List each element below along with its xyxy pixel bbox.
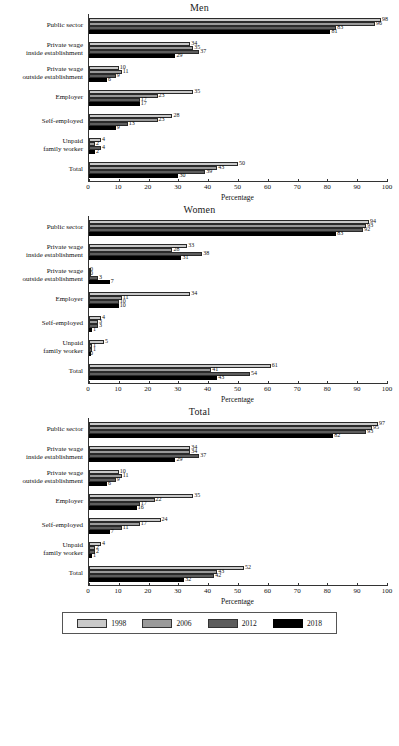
x-axis-tick (387, 179, 388, 182)
x-axis-tick-label: 100 (382, 183, 393, 191)
x-axis-tick-label: 20 (144, 183, 151, 191)
y-axis-label-line2: family worker (43, 348, 83, 356)
bar-2018[interactable] (89, 304, 119, 308)
bar-value-label: 9 (116, 124, 120, 131)
bar-value-label: 6 (107, 480, 111, 487)
x-axis-tick-label: 60 (264, 385, 271, 393)
x-axis-tick-label: 20 (144, 587, 151, 595)
y-axis-label: Employer (55, 94, 83, 102)
bar-2018[interactable] (89, 434, 333, 438)
y-axis-label: Private wageoutside establishment (23, 66, 83, 81)
x-axis-tick-labels-total: 0102030405060708090100 (88, 586, 387, 598)
panel-total: Total Public sectorPrivate wageinside es… (0, 404, 399, 606)
bar-2018[interactable] (89, 280, 110, 284)
x-axis-tick-label: 20 (144, 385, 151, 393)
bar-value-label: 29 (175, 52, 182, 59)
x-axis-tick-label: 40 (204, 587, 211, 595)
y-axis-label-line1: Total (69, 166, 83, 174)
legend-item-1998[interactable]: 1998 (77, 619, 126, 628)
x-axis-tick-label: 70 (294, 587, 301, 595)
y-axis-label-line1: Public sector (47, 224, 83, 232)
bar-group: 5110 (89, 340, 387, 356)
bar-row: 82 (89, 434, 387, 438)
x-axis-tick-label: 70 (294, 385, 301, 393)
bar-group: 2823139 (89, 114, 387, 130)
bar-row: 83 (89, 232, 387, 236)
y-axis-label: Unpaidfamily worker (43, 340, 83, 355)
bar-2018[interactable] (89, 232, 336, 236)
x-axis-tick-label: 40 (204, 183, 211, 191)
x-axis-tick-label: 90 (354, 385, 361, 393)
x-axis-tick-label: 50 (234, 385, 241, 393)
bar-group: 34353729 (89, 42, 387, 58)
y-axis-label-line1: Employer (55, 94, 83, 102)
legend-swatch-2018 (273, 619, 303, 628)
bar-row: 17 (89, 102, 387, 106)
y-axis-label: Unpaidfamily worker (43, 542, 83, 557)
x-axis-tick-label: 30 (174, 385, 181, 393)
legend-label: 1998 (111, 619, 126, 628)
bar-group: 4331 (89, 316, 387, 332)
bar-group: 101196 (89, 470, 387, 486)
bar-2018[interactable] (89, 54, 175, 58)
y-axis-label-line1: Total (69, 368, 83, 376)
bar-2018[interactable] (89, 482, 107, 486)
bar-2018[interactable] (89, 530, 110, 534)
legend-swatch-1998 (77, 619, 107, 628)
bar-value-label: 81 (330, 28, 337, 35)
y-axis-label-line2: inside establishment (26, 50, 83, 58)
bar-group: 35231717 (89, 90, 387, 106)
x-axis-tick-label: 10 (114, 385, 121, 393)
bar-2018[interactable] (89, 506, 137, 510)
bar-value-label: 17 (140, 100, 147, 107)
x-axis-tick-label: 80 (324, 587, 331, 595)
bar-row: 7 (89, 530, 387, 534)
legend-item-2006[interactable]: 2006 (142, 619, 191, 628)
legend-item-2012[interactable]: 2012 (208, 619, 257, 628)
bar-value-label: 10 (119, 302, 126, 309)
plot-area-men: Public sectorPrivate wageinside establis… (88, 14, 387, 182)
bar-row: 2 (89, 150, 387, 154)
y-axis-label: Private wageinside establishment (26, 244, 83, 259)
bar-value-label: 7 (110, 528, 114, 535)
y-axis-label-line2: inside establishment (26, 454, 83, 462)
bar-group: 34111010 (89, 292, 387, 308)
bar-row: 10 (89, 304, 387, 308)
legend-item-2018[interactable]: 2018 (273, 619, 322, 628)
bar-2018[interactable] (89, 458, 175, 462)
bar-row: 6 (89, 482, 387, 486)
y-axis-label: Public sector (47, 426, 83, 434)
bar-value-label: 82 (333, 432, 340, 439)
bar-value-label: 1 (92, 552, 96, 559)
bar-2018[interactable] (89, 126, 116, 130)
bar-2018[interactable] (89, 30, 330, 34)
bar-value-label: 7 (110, 278, 114, 285)
bar-group: 61415443 (89, 364, 387, 380)
bar-value-label: 31 (181, 254, 188, 261)
bar-2018[interactable] (89, 256, 181, 260)
bar-2018[interactable] (89, 102, 140, 106)
x-axis-tick-label: 40 (204, 385, 211, 393)
bar-value-label: 6 (107, 76, 111, 83)
bar-row: 9 (89, 126, 387, 130)
bar-row: 29 (89, 54, 387, 58)
y-axis-label-line1: Total (69, 570, 83, 578)
bar-group: 52434232 (89, 566, 387, 582)
x-axis-title-total: Percentage (0, 597, 399, 606)
legend-label: 2006 (176, 619, 191, 628)
y-axis-label: Private wageoutside establishment (23, 470, 83, 485)
y-axis-label: Self-employed (42, 522, 83, 530)
bar-group: 4242 (89, 138, 387, 154)
bar-2018[interactable] (89, 78, 107, 82)
x-axis-tick-label: 30 (174, 587, 181, 595)
y-axis-label: Employer (55, 296, 83, 304)
y-axis-label-line1: Self-employed (42, 320, 83, 328)
bar-group: 2417117 (89, 518, 387, 534)
y-axis-label-line2: outside establishment (23, 276, 83, 284)
x-axis-tick-label: 10 (114, 183, 121, 191)
y-axis-label-line2: family worker (43, 146, 83, 154)
y-axis-label-line1: Self-employed (42, 522, 83, 530)
x-axis-tick-label: 50 (234, 183, 241, 191)
bar-row: 7 (89, 280, 387, 284)
x-axis-tick-label: 30 (174, 183, 181, 191)
